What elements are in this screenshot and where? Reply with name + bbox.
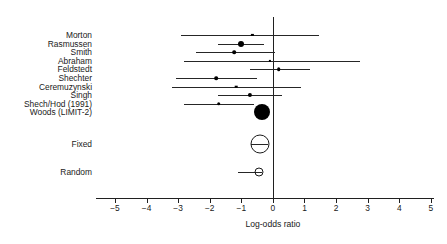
forest-plot-figure: MortonRasmussenSmithAbrahamFeldstedtShec… [0, 0, 447, 244]
point-estimate-square [235, 85, 238, 88]
x-axis-title: Log-odds ratio [245, 220, 300, 229]
study-label-column: MortonRasmussenSmithAbrahamFeldstedtShec… [0, 0, 92, 244]
x-tick-label: −5 [110, 204, 120, 212]
confidence-interval-line [184, 61, 359, 62]
point-estimate-square [269, 60, 271, 62]
x-tick-label: 1 [302, 204, 307, 212]
point-estimate-circle [214, 76, 218, 80]
point-estimate-circle [238, 41, 244, 47]
point-estimate-circle [254, 104, 270, 120]
point-estimate-circle [277, 68, 281, 72]
x-tick-label: 3 [365, 204, 370, 212]
study-label: Fixed [72, 140, 92, 148]
x-tick-label: −4 [142, 204, 152, 212]
null-reference-line [273, 17, 274, 198]
x-tick-label: 5 [428, 204, 433, 212]
point-estimate-circle [248, 93, 252, 97]
study-label: Random [60, 168, 92, 176]
x-tick-label: −2 [205, 204, 215, 212]
point-estimate-circle [233, 50, 237, 54]
x-tick-label: 2 [334, 204, 339, 212]
summary-estimate-circle [250, 135, 269, 154]
study-label: Woods (LIMIT-2) [30, 108, 92, 116]
x-tick-label: 4 [397, 204, 402, 212]
x-tick-label: −1 [237, 204, 247, 212]
summary-estimate-circle [254, 168, 263, 177]
x-tick-label: −3 [173, 204, 183, 212]
point-estimate-circle [217, 102, 221, 106]
confidence-interval-line [181, 35, 319, 36]
x-tick-label: 0 [271, 204, 276, 212]
point-estimate-square [251, 34, 253, 36]
